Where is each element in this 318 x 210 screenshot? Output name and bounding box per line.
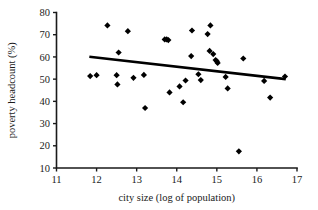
- y-tick-label: 60: [40, 52, 51, 63]
- data-point: [240, 55, 246, 61]
- x-tick-label: 15: [212, 174, 223, 185]
- data-point: [205, 31, 211, 37]
- data-point: [180, 99, 186, 105]
- data-point-markers: [87, 22, 288, 154]
- data-point: [114, 81, 120, 87]
- x-tick-label: 13: [131, 174, 142, 185]
- data-point: [236, 148, 242, 154]
- x-tick-label: 17: [292, 174, 303, 185]
- axis-frame: [57, 13, 298, 169]
- x-tick-label: 12: [91, 174, 102, 185]
- data-point: [104, 22, 110, 28]
- x-tick-label: 11: [51, 174, 61, 185]
- data-point: [267, 94, 273, 100]
- y-tick-label: 20: [40, 140, 51, 151]
- data-point: [188, 53, 194, 59]
- data-point: [125, 28, 131, 34]
- y-axis-title: poverty headcount (%): [6, 42, 18, 139]
- data-point: [225, 85, 231, 91]
- data-point: [223, 74, 229, 80]
- data-point: [176, 83, 182, 89]
- data-point: [141, 72, 147, 78]
- y-tick-label: 30: [40, 118, 51, 129]
- data-point: [166, 89, 172, 95]
- x-axis-tick-labels: 11121314151617: [51, 174, 302, 185]
- data-point: [142, 105, 148, 111]
- y-tick-label: 70: [40, 29, 51, 40]
- y-tick-label: 50: [40, 74, 51, 85]
- data-point: [87, 73, 93, 79]
- data-point: [189, 27, 195, 33]
- y-tick-label: 80: [40, 7, 51, 18]
- plot-canvas: 1020304050607080 11121314151617 city siz…: [0, 0, 318, 210]
- y-tick-label: 40: [40, 96, 51, 107]
- data-point: [114, 72, 120, 78]
- x-axis-title: city size (log of population): [118, 192, 235, 204]
- data-point: [207, 22, 213, 28]
- x-tick-label: 14: [172, 174, 183, 185]
- y-tick-label: 10: [40, 163, 51, 174]
- data-point: [198, 77, 204, 83]
- data-point: [261, 78, 267, 84]
- data-point: [130, 75, 136, 81]
- data-point: [195, 71, 201, 77]
- x-tick-label: 16: [252, 174, 263, 185]
- scatter-plot-figure: 1020304050607080 11121314151617 city siz…: [0, 0, 318, 210]
- y-axis-tick-labels: 1020304050607080: [40, 7, 51, 174]
- data-point: [93, 72, 99, 78]
- data-point: [116, 49, 122, 55]
- data-point: [182, 77, 188, 83]
